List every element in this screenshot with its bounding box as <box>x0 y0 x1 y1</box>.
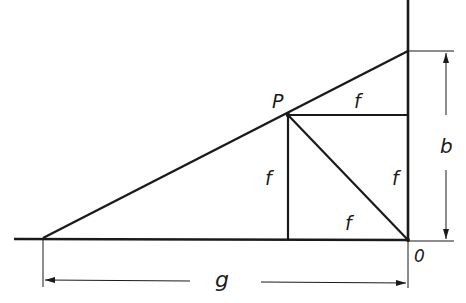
baseline <box>14 239 408 240</box>
g-arrow-left <box>45 280 190 281</box>
label-dimension-g: g <box>215 267 229 292</box>
hypotenuse-line <box>43 51 408 238</box>
label-f-left: f <box>265 167 275 189</box>
label-f-bottom: f <box>345 212 355 234</box>
point-p-marker <box>286 113 290 117</box>
label-dimension-b: b <box>440 134 453 158</box>
origin-marker <box>406 238 410 242</box>
diagram-canvas: P f f f f b 0 g <box>0 0 466 303</box>
label-origin: 0 <box>414 246 425 266</box>
label-point-p: P <box>272 90 284 112</box>
g-arrow-right <box>261 282 406 283</box>
label-f-right: f <box>392 167 402 189</box>
label-f-top: f <box>354 90 364 112</box>
